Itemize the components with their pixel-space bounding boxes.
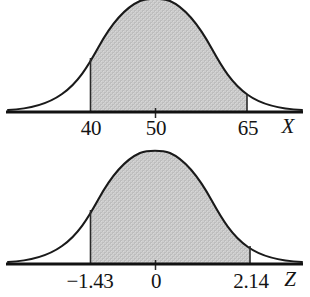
bottom-axis-label-z: Z bbox=[284, 267, 296, 291]
top-axis-label-x: X bbox=[281, 114, 296, 138]
top-tick-label-center: 50 bbox=[146, 116, 166, 140]
bottom-tick-label-lower: −1.43 bbox=[66, 269, 113, 293]
normal-distribution-figure: 40 50 65 X −1.43 0 2.14 Z bbox=[0, 0, 310, 297]
top-shaded-region bbox=[8, 0, 302, 112]
bottom-distribution-chart: −1.43 0 2.14 Z bbox=[6, 151, 303, 293]
top-shade-fill bbox=[8, 0, 302, 112]
bottom-shade-fill bbox=[8, 151, 302, 264]
bottom-tick-label-upper: 2.14 bbox=[233, 269, 269, 293]
top-distribution-chart: 40 50 65 X bbox=[6, 0, 303, 140]
bottom-tick-label-center: 0 bbox=[151, 269, 161, 293]
top-tick-label-lower: 40 bbox=[81, 116, 101, 140]
bottom-shaded-region bbox=[8, 151, 302, 264]
top-tick-label-upper: 65 bbox=[238, 116, 258, 140]
